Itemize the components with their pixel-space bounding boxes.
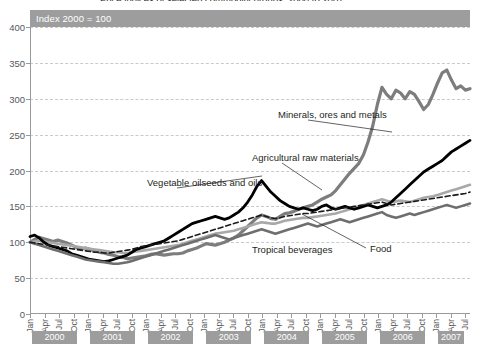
x-tick [190,314,191,318]
x-tick [320,314,321,318]
x-tick [335,314,336,318]
series-line-tropical-beverages [30,204,470,264]
x-tick [132,314,133,318]
x-tick [407,314,408,318]
year-band-2003: 2003 [206,331,251,344]
x-month-label: Jul [345,319,354,330]
x-tick [436,314,437,318]
year-band-2001: 2001 [90,331,135,344]
year-band-2004: 2004 [264,331,309,344]
x-month-label: Jul [113,319,122,330]
x-tick [262,314,263,318]
x-month-label: Jul [171,319,180,330]
annotation-minerals: Minerals, ores and metals [278,109,387,120]
x-month-label: Jul [461,319,470,330]
x-tick [233,314,234,318]
commodity-price-index-chart: Price indices of selected commodity grou… [0,0,484,346]
year-band-2000: 2000 [32,331,77,344]
y-tick-label-400: 400 [9,22,25,33]
y-tick-label-150: 150 [9,201,25,212]
x-tick [248,314,249,318]
y-tick-label-300: 300 [9,93,25,104]
annotation-agricultural: Agricultural raw materials [252,152,359,163]
y-tick-label-50: 50 [14,273,25,284]
x-tick [349,314,350,318]
x-tick [117,314,118,318]
y-tick-label-100: 100 [9,237,25,248]
index-note-label: Index 2000 = 100 [36,13,111,24]
index-note-bar: Index 2000 = 100 [30,10,470,27]
x-month-label: Jul [287,319,296,330]
x-tick [393,314,394,318]
x-tick [451,314,452,318]
y-axis-labels: 050100150200250300350400 [0,0,30,346]
x-tick [277,314,278,318]
x-tick [219,314,220,318]
series-lines [30,27,470,314]
x-tick [175,314,176,318]
x-tick [306,314,307,318]
x-tick [45,314,46,318]
x-month-label: Jul [229,319,238,330]
y-tick-label-200: 200 [9,165,25,176]
x-tick [161,314,162,318]
x-tick [378,314,379,318]
annotation-vegetable-oils: Vegetable oilseeds and oils [147,177,262,188]
y-tick-label-250: 250 [9,129,25,140]
year-band-2005: 2005 [322,331,367,344]
x-axis-year-bands: 20002001200220032004200520062007 [30,331,470,344]
x-tick [59,314,60,318]
x-tick [146,314,147,318]
x-tick [30,314,31,318]
x-tick [103,314,104,318]
x-tick [74,314,75,318]
x-month-label: Jul [55,319,64,330]
x-tick [291,314,292,318]
x-tick [465,314,466,318]
x-month-label: Jul [403,319,412,330]
x-tick [364,314,365,318]
x-tick [204,314,205,318]
annotation-food: Food [370,243,392,254]
series-line-minerals-ores-and-metals [30,70,470,259]
x-tick [422,314,423,318]
year-band-2007: 2007 [438,331,464,344]
year-band-2002: 2002 [148,331,193,344]
chart-title-cutoff: Price indices of selected commodity grou… [100,0,400,1]
year-band-2006: 2006 [380,331,425,344]
annotation-tropical-beverages: Tropical beverages [252,244,332,255]
y-tick-label-350: 350 [9,57,25,68]
x-tick [88,314,89,318]
